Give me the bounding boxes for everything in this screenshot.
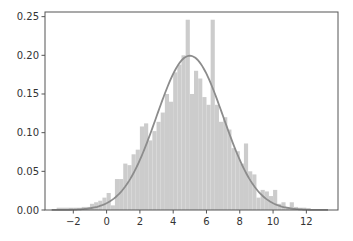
- x-tick-label: 6: [203, 216, 209, 227]
- histogram-bar: [173, 72, 177, 210]
- histogram-bar: [227, 130, 231, 210]
- histogram-bar: [194, 71, 198, 210]
- y-axis: 0.000.050.100.150.200.25: [17, 11, 45, 215]
- histogram-bar: [177, 65, 181, 210]
- x-axis: −2024681012: [66, 210, 313, 227]
- histogram-bar: [240, 164, 244, 210]
- x-tick-label: 8: [237, 216, 243, 227]
- histogram-bar: [165, 94, 169, 210]
- histogram-bar: [148, 140, 152, 210]
- histogram-bar: [119, 179, 123, 210]
- histogram-bar: [231, 148, 235, 210]
- histogram-chart: −2024681012 0.000.050.100.150.200.25: [0, 0, 353, 241]
- x-tick-label: 4: [170, 216, 176, 227]
- x-tick-label: 0: [103, 216, 109, 227]
- histogram-bar: [182, 55, 186, 210]
- histogram-bar: [252, 174, 256, 210]
- histogram-bar: [111, 205, 115, 210]
- histogram-bar: [152, 131, 156, 210]
- histogram-bar: [127, 165, 131, 210]
- histogram-bar: [261, 190, 265, 210]
- histogram-bar: [256, 198, 260, 210]
- histogram-bar: [215, 105, 219, 210]
- histogram-bar: [202, 97, 206, 210]
- x-tick-label: 2: [137, 216, 143, 227]
- histogram-bar: [132, 154, 136, 210]
- histogram-bar: [219, 122, 223, 210]
- histogram-bar: [273, 190, 277, 210]
- y-tick-label: 0.25: [17, 11, 39, 22]
- histogram-bar: [169, 102, 173, 210]
- histogram-bar: [144, 123, 148, 210]
- histogram-bar: [223, 117, 227, 210]
- x-tick-label: 10: [267, 216, 280, 227]
- histogram-bar: [136, 150, 140, 210]
- histogram-bar: [190, 94, 194, 210]
- x-tick-label: 12: [300, 216, 313, 227]
- histogram-bar: [211, 20, 215, 210]
- histogram-bars: [57, 20, 311, 210]
- histogram-bar: [157, 122, 161, 210]
- y-tick-label: 0.05: [17, 166, 39, 177]
- histogram-bar: [161, 113, 165, 210]
- y-tick-label: 0.15: [17, 88, 39, 99]
- histogram-bar: [198, 79, 202, 210]
- y-tick-label: 0.20: [17, 50, 39, 61]
- histogram-bar: [206, 105, 210, 210]
- histogram-bar: [186, 20, 190, 210]
- x-tick-label: −2: [66, 216, 81, 227]
- y-tick-label: 0.00: [17, 205, 39, 216]
- histogram-bar: [140, 126, 144, 210]
- y-tick-label: 0.10: [17, 127, 39, 138]
- density-curve: [52, 56, 328, 210]
